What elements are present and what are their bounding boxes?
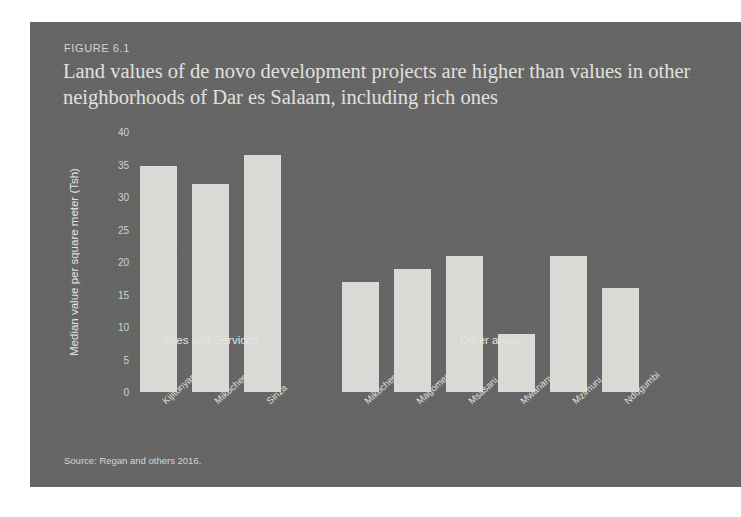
bar	[394, 269, 431, 393]
source-note: Source: Regan and others 2016.	[64, 455, 201, 466]
figure-title: Land values of de novo development proje…	[63, 58, 703, 110]
y-axis-tick-30: 30	[95, 192, 129, 203]
bar	[244, 155, 281, 392]
group-label-1: Sites and Services	[111, 334, 311, 346]
bar-series: KijitonyamaMikocheniSinzaMikocheni (old)…	[135, 132, 665, 392]
figure-panel: FIGURE 6.1 Land values of de novo develo…	[30, 22, 741, 487]
chart-plot-area: 0510152025303540 KijitonyamaMikocheniSin…	[135, 132, 665, 392]
bar	[192, 184, 229, 392]
bar	[342, 282, 379, 393]
y-axis-tick-0: 0	[95, 387, 129, 398]
bar	[602, 288, 639, 392]
y-axis-tick-10: 10	[95, 322, 129, 333]
y-axis-tick-40: 40	[95, 127, 129, 138]
bar	[140, 166, 177, 392]
bar	[550, 256, 587, 393]
y-axis-tick-15: 15	[95, 289, 129, 300]
group-label-2: Other areas	[391, 334, 591, 346]
y-axis-tick-20: 20	[95, 257, 129, 268]
y-axis-tick-35: 35	[95, 159, 129, 170]
y-axis-tick-5: 5	[95, 354, 129, 365]
bar	[446, 256, 483, 393]
y-axis-title: Median value per square meter (Tsh)	[66, 132, 82, 392]
y-axis-tick-25: 25	[95, 224, 129, 235]
figure-number-label: FIGURE 6.1	[64, 42, 130, 54]
